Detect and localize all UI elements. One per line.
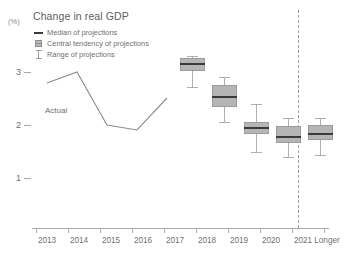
x-axis-line	[32, 228, 329, 229]
median-marker-2021	[276, 136, 301, 138]
x-label-longer: Longer	[305, 236, 347, 245]
median-marker-2018	[180, 63, 205, 65]
gdp-projections-chart: Change in real GDP (%) Median of project…	[0, 0, 347, 259]
x-tick-2015	[100, 228, 101, 233]
x-tick-2013	[36, 228, 37, 233]
median-marker-longer-run	[308, 133, 333, 135]
x-tick-longer	[324, 228, 325, 233]
x-tick-2018	[196, 228, 197, 233]
plot-area: 3 2 1 Actual	[0, 0, 347, 259]
actual-series-label: Actual	[45, 106, 67, 115]
x-tick-2020	[260, 228, 261, 233]
x-tick-2014	[68, 228, 69, 233]
median-marker-2020	[244, 127, 269, 129]
x-tick-2019	[228, 228, 229, 233]
x-tick-2017	[164, 228, 165, 233]
central-tendency-box-2021	[276, 126, 301, 143]
x-tick-2021	[292, 228, 293, 233]
x-tick-2016	[132, 228, 133, 233]
median-marker-2019	[212, 96, 237, 98]
